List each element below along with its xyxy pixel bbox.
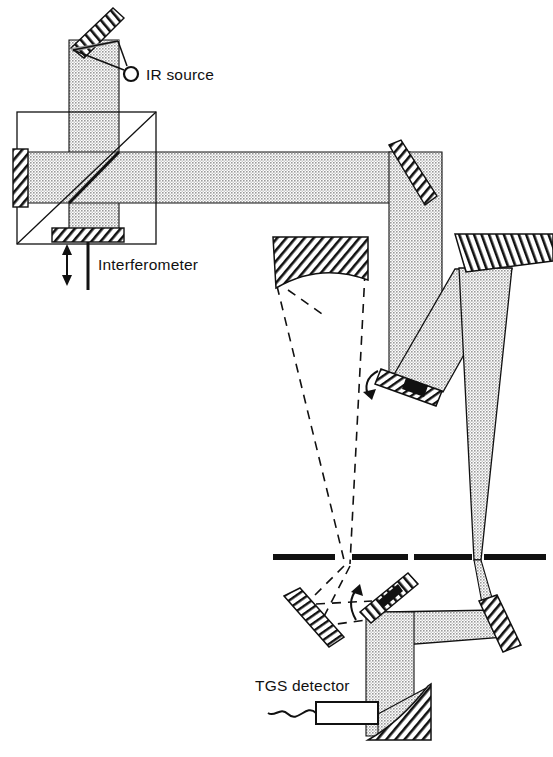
fixed-mirror <box>13 149 28 207</box>
label-tgs-detector: TGS detector <box>255 677 350 694</box>
tgs-detector-body <box>316 702 378 724</box>
label-interferometer: Interferometer <box>98 256 198 273</box>
figure-canvas: IR source Interferometer TGS detector <box>0 0 553 757</box>
optical-diagram-svg: IR source Interferometer TGS detector <box>0 0 553 757</box>
ir-source-icon <box>124 67 138 81</box>
label-ir-source: IR source <box>146 66 214 83</box>
